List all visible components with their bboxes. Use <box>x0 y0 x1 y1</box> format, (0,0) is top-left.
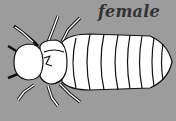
sex-label: female <box>98 2 160 21</box>
illustration: female <box>0 0 176 121</box>
